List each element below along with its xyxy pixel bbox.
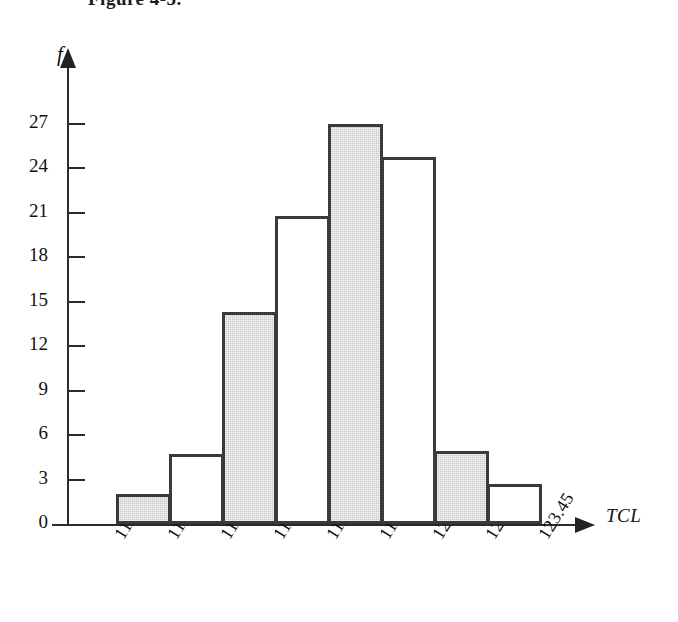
histogram-chart: f TCL 0369121518212427 111.45112.95114.4…: [0, 0, 678, 622]
histogram-bar: [434, 451, 489, 524]
histogram-bar: [275, 216, 330, 524]
plot-area: [0, 0, 678, 524]
histogram-bar: [487, 484, 542, 524]
histogram-bar: [328, 124, 383, 524]
histogram-bar: [222, 312, 277, 524]
histogram-bar: [381, 157, 436, 524]
histogram-bar: [169, 454, 224, 524]
histogram-bar: [116, 494, 171, 524]
